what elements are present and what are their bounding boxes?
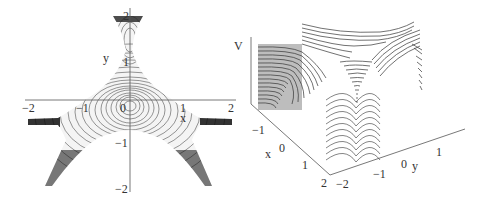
y-axis-label: y [103,51,109,65]
x-axis-label: x [180,111,186,125]
x3d-tick-2: 2 [321,176,327,190]
z-axis-label: V [234,39,243,53]
origin-label: 0 [120,101,126,115]
x-axis-3d [251,104,330,175]
y3d-axis-label: y [412,159,418,173]
x3d-tick-neg1: −1 [252,123,265,137]
y-axis-3d [330,129,465,175]
y-tick-neg2: −2 [115,182,128,196]
surface-left-wall [258,44,326,110]
x3d-tick-1: 1 [302,158,308,172]
y3d-tick-neg1: −1 [373,167,386,181]
surface-right-arm [372,30,422,90]
y-tick-neg1: −1 [115,136,128,150]
surface-back-wall [302,22,414,102]
x3d-tick-0: 0 [279,141,285,155]
surface-plot: V −1 0 1 2 x −2 −1 0 1 y [234,22,465,191]
y-tick-1: 1 [123,55,129,69]
x-tick-neg2: −2 [22,101,35,115]
x3d-axis-label: x [265,147,271,161]
x-tick-neg1: −1 [76,101,89,115]
y3d-tick-0: 0 [401,157,407,171]
y3d-tick-1: 1 [436,145,442,159]
surface-front-arm [326,93,380,162]
figure: −2 −1 0 1 2 x 2 1 −1 −2 y [0,0,485,202]
contour-plot: −2 −1 0 1 2 x 2 1 −1 −2 y [20,8,240,196]
y-tick-2: 2 [123,9,129,23]
y3d-tick-neg2: −2 [336,177,349,191]
x-tick-2: 2 [228,101,234,115]
